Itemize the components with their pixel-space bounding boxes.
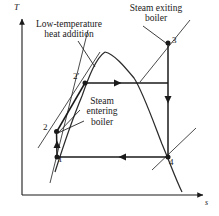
- annotation-steam-exiting-boiler: Steam exiting boiler: [115, 3, 197, 24]
- leader-steam-exiting-boiler: [143, 26, 166, 43]
- state-point-label-3: 3: [172, 36, 177, 46]
- annotation-steam-entering-boiler: Steam entering boiler: [80, 96, 124, 127]
- annotation-low-temperature-heat-addition: Low-temperature heat addition: [25, 19, 113, 40]
- marker-point-2prime: [83, 81, 88, 86]
- arrow-2prime-to-3-head: [114, 80, 122, 87]
- state-point-label-2-prime: 2′: [73, 72, 79, 82]
- arrow-4-to-1-head: [119, 154, 127, 161]
- arrow-3-to-4-head: [165, 96, 172, 104]
- state-point-label-2: 2: [43, 123, 48, 133]
- ts-diagram-figure: T s Low-temperature heat addition Steam …: [0, 0, 219, 216]
- x-axis-label: s: [205, 199, 208, 208]
- marker-point-2: [54, 129, 59, 134]
- y-axis-label: T: [14, 3, 19, 13]
- state-point-label-1: 1: [58, 155, 63, 165]
- state-point-label-4: 4: [169, 158, 174, 168]
- leader-low-temperature-heat-addition: [78, 41, 95, 67]
- marker-point-3: [166, 41, 171, 46]
